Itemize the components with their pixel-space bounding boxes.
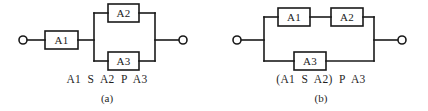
terminal-b-left xyxy=(233,36,241,44)
circuit-b-graphics xyxy=(214,0,428,80)
block-label-a-a2: A2 xyxy=(108,8,139,19)
block-label-a-a1: A1 xyxy=(45,35,78,46)
expression-b: (A1 S A2) P A3 xyxy=(214,73,428,85)
block-label-b-a1: A1 xyxy=(278,12,310,23)
subcaption-a: (a) xyxy=(0,92,214,104)
terminal-a-right xyxy=(179,36,187,44)
block-label-a-a3: A3 xyxy=(108,56,139,67)
expression-a: A1 S A2 P A3 xyxy=(0,73,214,85)
subfigure-b: A1 A2 A3 (A1 S A2) P A3 (b) xyxy=(214,0,428,111)
subcaption-b: (b) xyxy=(214,92,428,104)
circuit-a-graphics xyxy=(0,0,214,80)
reliability-block-diagram-figure: A1 A2 A3 A1 S A2 P A3 (a) xyxy=(0,0,428,111)
terminal-a-left xyxy=(19,36,27,44)
subfigure-a: A1 A2 A3 A1 S A2 P A3 (a) xyxy=(0,0,214,111)
block-label-b-a2: A2 xyxy=(331,12,363,23)
terminal-b-right xyxy=(398,36,406,44)
block-label-b-a3: A3 xyxy=(294,56,326,67)
